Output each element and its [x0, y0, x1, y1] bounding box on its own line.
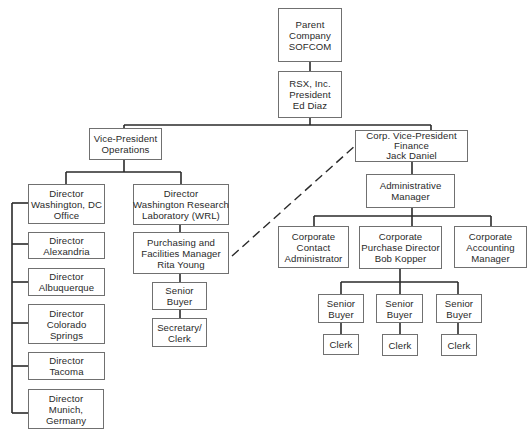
node-vp-operations: Vice-President Operations	[89, 128, 162, 160]
node-clerk-3: Clerk	[441, 334, 477, 356]
node-accounting-manager: Corporate Accounting Manager	[454, 226, 527, 268]
node-senior-buyer-2: Senior Buyer	[376, 294, 423, 323]
node-contact-administrator: Corporate Contact Administrator	[278, 226, 349, 268]
node-purchase-director: Corporate Purchase Director Bob Kopper	[359, 226, 442, 269]
node-vp-finance: Corp. Vice-President Finance Jack Daniel	[355, 130, 468, 162]
node-wrl-senior-buyer: Senior Buyer	[152, 282, 207, 310]
node-director-munich: Director Munich, Germany	[28, 389, 104, 429]
node-parent-company: Parent Company SOFCOM	[278, 8, 342, 62]
node-purchasing-manager: Purchasing and Facilities Manager Rita Y…	[133, 232, 229, 274]
node-director-washington-dc: Director Washington, DC Office	[28, 184, 105, 224]
node-senior-buyer-1: Senior Buyer	[318, 294, 364, 323]
node-senior-buyer-3: Senior Buyer	[436, 294, 482, 323]
node-administrative-manager: Administrative Manager	[366, 174, 455, 208]
node-clerk-1: Clerk	[323, 334, 359, 355]
node-director-albuquerque: Director Albuquerque	[28, 268, 105, 296]
node-president: RSX, Inc. President Ed Diaz	[278, 71, 342, 118]
node-director-tacoma: Director Tacoma	[28, 352, 105, 380]
node-clerk-2: Clerk	[382, 334, 418, 356]
node-wrl-secretary-clerk: Secretary/ Clerk	[152, 318, 207, 347]
node-director-alexandria: Director Alexandria	[28, 232, 105, 259]
node-director-colorado-springs: Director Colorado Springs	[28, 304, 105, 344]
node-director-wrl: Director Washington Research Laboratory …	[133, 184, 229, 225]
